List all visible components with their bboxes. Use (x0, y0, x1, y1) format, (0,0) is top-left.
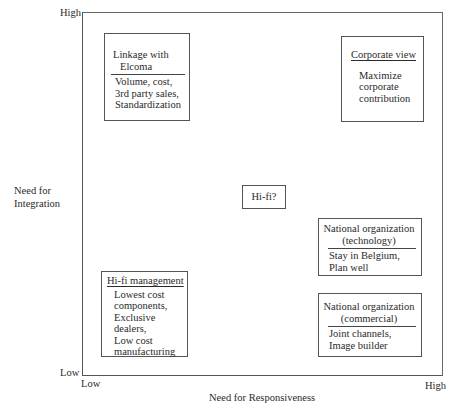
divider (328, 248, 416, 249)
box-item: Volume, cost, (115, 76, 185, 88)
box-corporate-view: Corporate view Maximize corporate contri… (341, 36, 424, 122)
box-hifi-question: Hi-fi? (242, 185, 286, 209)
box-title: Corporate view (351, 49, 423, 61)
box-item: 3rd party sales, (115, 88, 185, 100)
box-title-line: (technology) (319, 235, 419, 247)
box-title: Hi-fi? (243, 186, 285, 203)
box-item: Standardization (115, 99, 185, 111)
box-national-commercial: National organization (commercial) Joint… (318, 293, 422, 357)
box-title-line: Linkage with (113, 49, 185, 61)
x-axis-low-label: Low (81, 378, 100, 390)
box-item: corporate (359, 81, 423, 93)
box-item: Low cost (114, 335, 187, 347)
box-title-line: National organization (319, 301, 419, 313)
y-axis-title-line2: Integration (14, 198, 60, 210)
box-item: Joint channels, (329, 328, 421, 340)
box-item: Maximize (359, 70, 423, 82)
box-title: Hi-fi management (107, 275, 187, 287)
box-item: Stay in Belgium, (329, 250, 421, 262)
x-axis-high-label: High (425, 380, 446, 392)
box-linkage-elcoma: Linkage with Elcoma Volume, cost, 3rd pa… (104, 33, 190, 121)
box-item: dealers, (114, 323, 187, 335)
divider (111, 74, 185, 75)
y-axis-low-label: Low (60, 367, 79, 379)
box-title-line: Elcoma (113, 61, 185, 73)
box-hifi-management: Hi-fi management Lowest cost components,… (101, 271, 188, 357)
box-title-line: (commercial) (319, 313, 419, 325)
y-axis-title-line1: Need for (14, 185, 51, 197)
divider (328, 326, 416, 327)
box-national-technology: National organization (technology) Stay … (318, 218, 422, 276)
box-item: Exclusive (114, 312, 187, 324)
box-item: contribution (359, 93, 423, 105)
y-axis-high-label: High (60, 7, 81, 19)
box-item: manufacturing (114, 346, 187, 358)
box-item: Plan well (329, 262, 421, 274)
x-axis-title: Need for Responsiveness (209, 392, 315, 404)
box-title-line: National organization (319, 223, 419, 235)
box-item: components, (114, 300, 187, 312)
box-item: Lowest cost (114, 289, 187, 301)
box-item: Image builder (329, 340, 421, 352)
